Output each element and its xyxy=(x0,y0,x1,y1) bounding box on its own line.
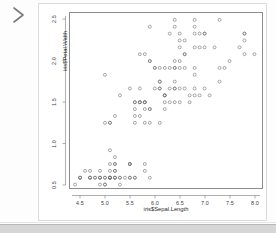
scatter-point xyxy=(178,32,181,35)
scatter-point xyxy=(148,60,151,63)
scatter-point xyxy=(188,94,191,97)
scatter-point xyxy=(143,108,146,111)
scatter-point xyxy=(193,25,196,28)
scatter-point xyxy=(178,39,181,42)
scatter-point xyxy=(128,176,131,179)
scatter-point xyxy=(113,163,116,166)
scatter-point xyxy=(118,94,121,97)
scatter-point xyxy=(193,18,196,21)
scatter-point xyxy=(203,32,206,35)
scatter-point xyxy=(158,80,161,83)
scatter-point xyxy=(133,114,136,117)
scatter-point xyxy=(198,32,201,35)
scatter-point xyxy=(163,66,166,69)
scatter-point xyxy=(193,73,196,76)
scatter-point xyxy=(138,114,141,117)
scatter-point xyxy=(158,121,161,124)
scatter-point xyxy=(158,87,161,90)
scatter-point xyxy=(183,87,186,90)
scatter-point xyxy=(213,46,216,49)
scatter-point xyxy=(148,108,151,111)
scatter-point xyxy=(163,101,166,104)
scatter-point xyxy=(243,53,246,56)
scatter-point xyxy=(128,87,131,90)
scatter-point xyxy=(173,60,176,63)
scatter-point xyxy=(153,66,156,69)
scatter-point xyxy=(108,149,111,152)
scatter-point xyxy=(143,101,146,104)
scatter-point xyxy=(163,94,166,97)
scatter-point xyxy=(173,66,176,69)
scatter-point xyxy=(218,18,221,21)
scatter-point xyxy=(168,87,171,90)
scatter-points-layer xyxy=(70,13,262,188)
scatter-point xyxy=(113,169,116,172)
r-plot-viewport: > 4.5 5.0 5.5 6.0 xyxy=(0,0,276,233)
scatter-point xyxy=(218,66,221,69)
scatter-point xyxy=(108,169,111,172)
footer-divider xyxy=(0,222,276,223)
scatter-point xyxy=(94,176,97,179)
scatter-point xyxy=(128,163,131,166)
scatter-point xyxy=(123,176,126,179)
y-tick-label: 2.5 xyxy=(51,15,57,23)
scatter-point xyxy=(203,87,206,90)
scatter-point xyxy=(99,183,102,186)
scatter-point xyxy=(243,32,246,35)
scatter-point xyxy=(103,176,106,179)
scatter-point xyxy=(133,121,136,124)
scatter-point xyxy=(143,163,146,166)
scatter-point xyxy=(223,66,226,69)
scatter-point xyxy=(173,80,176,83)
scatter-point xyxy=(148,121,151,124)
scatter-point xyxy=(203,46,206,49)
scatter-point xyxy=(118,183,121,186)
scatter-point xyxy=(103,73,106,76)
scatter-point xyxy=(108,121,111,124)
scatter-point xyxy=(178,101,181,104)
scatter-point xyxy=(193,87,196,90)
plot-panel[interactable]: 4.5 5.0 5.5 6.0 6.5 7.0 7.5 8.0 0.5 1.0 … xyxy=(38,3,267,221)
scatter-point xyxy=(158,66,161,69)
x-axis-label: iris$Sepal.Length xyxy=(69,206,263,212)
y-axis-label: iris$Petal.Width xyxy=(62,3,68,99)
scatter-point xyxy=(178,66,181,69)
y-tick-label: 2.0 xyxy=(51,57,57,65)
scatter-point xyxy=(133,108,136,111)
y-tick-label: 1.0 xyxy=(51,140,57,148)
scatter-point xyxy=(108,176,111,179)
scatter-point xyxy=(143,169,146,172)
scatter-point xyxy=(143,53,146,56)
scatter-point xyxy=(193,66,196,69)
scatter-point xyxy=(218,80,221,83)
footer-bar xyxy=(0,224,276,233)
scatter-point xyxy=(138,101,141,104)
scatter-point xyxy=(183,53,186,56)
scatter-point xyxy=(148,25,151,28)
scatter-point xyxy=(183,66,186,69)
scatter-point xyxy=(99,169,102,172)
scatter-point xyxy=(89,169,92,172)
scatter-point xyxy=(153,87,156,90)
scatter-point xyxy=(99,176,102,179)
scatter-point xyxy=(238,46,241,49)
scatter-point xyxy=(138,53,141,56)
scatter-point xyxy=(198,94,201,97)
scatter-point xyxy=(168,32,171,35)
console-prompt-chevron-icon: > xyxy=(8,4,30,26)
scatter-point xyxy=(89,176,92,179)
scatter-point xyxy=(138,87,141,90)
scatter-point xyxy=(133,101,136,104)
scatter-point xyxy=(228,60,231,63)
scatter-point xyxy=(148,176,151,179)
scatter-point xyxy=(193,46,196,49)
scatter-point xyxy=(133,176,136,179)
plot-frame xyxy=(69,12,263,189)
scatter-point xyxy=(79,176,82,179)
scatter-point xyxy=(243,39,246,42)
scatter-point xyxy=(103,121,106,124)
scatter-point xyxy=(118,176,121,179)
scatter-point xyxy=(173,25,176,28)
y-tick-label: 0.5 xyxy=(51,181,57,189)
scatter-point xyxy=(198,46,201,49)
